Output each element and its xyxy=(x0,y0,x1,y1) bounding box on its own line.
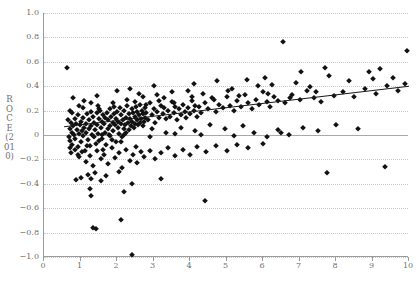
x-tick-label: 8 xyxy=(332,262,337,270)
y-tick-label: 0.4 xyxy=(26,82,39,90)
trendline xyxy=(44,13,409,257)
scatter-plot-figure: ROCE (2010) −1.0−0.8−0.6−0.4−0.200.20.40… xyxy=(0,0,419,288)
x-tick-label: 10 xyxy=(403,262,413,270)
x-tick-label: 2 xyxy=(113,262,118,270)
y-tick-label: 0 xyxy=(34,131,39,139)
y-tick-label: −1.0 xyxy=(20,253,39,261)
y-axis-tick-labels: −1.0−0.8−0.6−0.4−0.200.20.40.60.81.0 xyxy=(0,13,43,257)
y-tick-label: 1.0 xyxy=(26,9,39,17)
y-tick-label: 0.2 xyxy=(26,107,39,115)
x-tick-label: 3 xyxy=(150,262,155,270)
x-tick-label: 0 xyxy=(40,262,45,270)
x-tick-label: 6 xyxy=(259,262,264,270)
x-tick-label: 9 xyxy=(369,262,374,270)
x-tick-label: 5 xyxy=(223,262,228,270)
y-tick-label: −0.4 xyxy=(20,180,39,188)
x-tick-label: 4 xyxy=(186,262,191,270)
y-tick-label: 0.6 xyxy=(26,58,39,66)
x-tick-label: 1 xyxy=(77,262,82,270)
y-tick-label: −0.8 xyxy=(20,229,39,237)
plot-area xyxy=(43,13,408,257)
x-tick-label: 7 xyxy=(296,262,301,270)
y-tick-label: −0.6 xyxy=(20,204,39,212)
y-tick-label: 0.8 xyxy=(26,33,39,41)
y-tick-label: −0.2 xyxy=(20,155,39,163)
x-axis-ticks: 012345678910 xyxy=(43,257,408,281)
